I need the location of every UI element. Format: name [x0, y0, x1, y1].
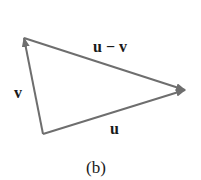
label-u: u [110, 120, 119, 138]
vector-diagram: u − v v u (b) [0, 0, 201, 180]
vector-v-arrow [24, 38, 43, 134]
label-v: v [14, 84, 22, 102]
label-u-minus-v: u − v [93, 38, 127, 56]
caption: (b) [86, 158, 106, 178]
vector-triangle [0, 0, 201, 180]
